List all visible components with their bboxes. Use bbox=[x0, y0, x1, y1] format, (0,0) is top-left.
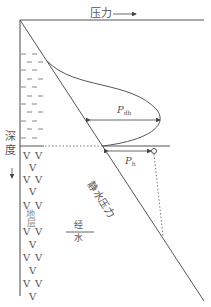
fraction-top-label: 经 bbox=[74, 221, 83, 230]
fraction-bottom-label: 水 bbox=[74, 234, 83, 243]
depth-label-char-2: 度 bbox=[5, 145, 16, 156]
pressure-axis-label: 压力 bbox=[90, 8, 112, 19]
layer-label-char-2: 层 bbox=[27, 219, 36, 228]
overpressure-curve bbox=[47, 61, 160, 146]
mud-layer-symbols bbox=[21, 54, 43, 138]
projection-dotted bbox=[154, 154, 163, 236]
depth-label-char-1: 深 bbox=[5, 131, 16, 142]
p-dh-label: Pdh bbox=[117, 105, 131, 116]
diagram-canvas bbox=[0, 0, 211, 307]
p-h-point-icon bbox=[152, 149, 157, 154]
p-h-label: Ph bbox=[125, 156, 136, 167]
